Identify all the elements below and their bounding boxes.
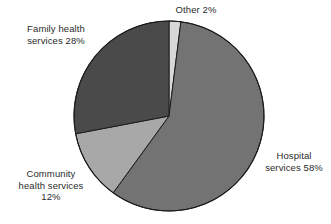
pie-label-family-health-services: Family health services 28%: [8, 23, 104, 46]
pie-chart-figure: Family health services 28% Other 2% Hosp…: [0, 0, 331, 224]
pie-label-hospital-services: Hospital services 58%: [258, 150, 330, 173]
pie-label-community-health-services: Community health services 12%: [2, 168, 100, 203]
pie-slice-group: [74, 21, 264, 211]
pie-label-other: Other 2%: [160, 4, 232, 16]
